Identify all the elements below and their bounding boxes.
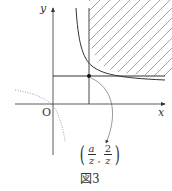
y-denominator: z: [105, 155, 110, 166]
x-axis-label: x: [158, 107, 164, 118]
figure-caption: 図3: [80, 173, 100, 185]
y-numerator: 2: [104, 143, 112, 155]
x-coordinate-fraction: a z: [88, 143, 96, 166]
close-paren: ): [115, 144, 120, 166]
x-denominator: z: [89, 155, 94, 166]
point-coordinate-label: ( a z , 2 z ): [78, 143, 122, 166]
dotted-curve: [15, 90, 65, 142]
pointer-arrow: [91, 78, 113, 143]
x-numerator: a: [88, 143, 96, 155]
y-axis-label: y: [40, 3, 46, 14]
open-paren: (: [80, 144, 85, 166]
comma: ,: [98, 153, 101, 164]
intersection-point: [87, 74, 91, 78]
y-coordinate-fraction: 2 z: [104, 143, 112, 166]
origin-label: O: [42, 107, 51, 118]
